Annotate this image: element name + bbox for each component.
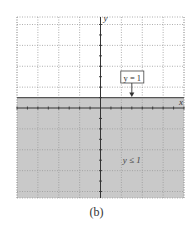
arrow-down-icon	[129, 93, 134, 98]
figure-caption: (b)	[0, 205, 193, 220]
x-axis-label: x	[178, 97, 183, 107]
inequality-graph: xyy = 1y ≤ 1	[0, 0, 193, 229]
y-axis-label: y	[103, 13, 108, 23]
inequality-label: y ≤ 1	[122, 155, 141, 165]
boundary-label: y = 1	[124, 73, 142, 83]
